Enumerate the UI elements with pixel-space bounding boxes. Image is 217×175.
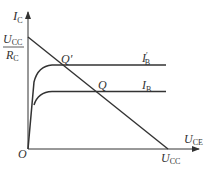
y-intercept-label: UCC RC bbox=[3, 32, 24, 63]
origin-label: O bbox=[18, 147, 27, 161]
q-prime-label: Q′ bbox=[61, 52, 73, 66]
svg-text:RC: RC bbox=[5, 48, 19, 63]
ib-label: IB bbox=[141, 78, 151, 94]
y-axis-label: IC bbox=[12, 8, 23, 25]
ib-prime-label: I′B bbox=[141, 51, 150, 67]
q-label: Q bbox=[98, 78, 107, 92]
x-axis-label: UCE bbox=[184, 132, 203, 147]
transistor-load-line-diagram: IC UCC RC Q′ Q I′B IB O UCC UCE bbox=[0, 0, 217, 175]
svg-text:UCC: UCC bbox=[3, 32, 22, 47]
x-intercept-label: UCC bbox=[161, 151, 180, 166]
